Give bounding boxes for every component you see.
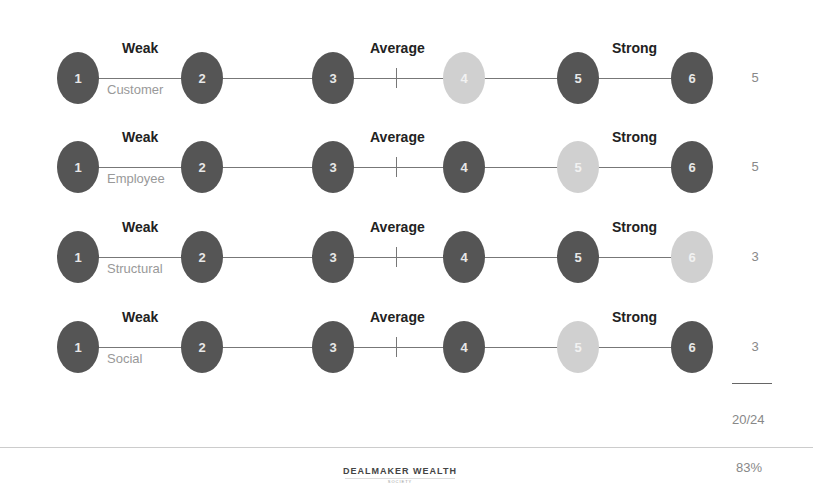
rating-circle-4[interactable]: 4	[443, 231, 485, 283]
rating-circle-2[interactable]: 2	[181, 141, 223, 193]
rating-circle-5[interactable]: 5	[557, 231, 599, 283]
band-label-weak: Weak	[122, 129, 158, 145]
rating-circle-2[interactable]: 2	[181, 52, 223, 104]
rating-circle-5[interactable]: 5	[557, 52, 599, 104]
scale-line	[78, 167, 692, 168]
row-score: 5	[745, 159, 765, 174]
rating-circle-1[interactable]: 1	[57, 321, 99, 373]
total-score: 20/24	[732, 412, 765, 427]
category-label: Employee	[107, 171, 165, 186]
band-label-average: Average	[370, 219, 425, 235]
band-label-strong: Strong	[612, 219, 657, 235]
row-score: 5	[745, 70, 765, 85]
scale-line	[78, 347, 692, 348]
rating-circle-4[interactable]: 4	[443, 141, 485, 193]
band-label-average: Average	[370, 40, 425, 56]
rating-circle-6[interactable]: 6	[671, 52, 713, 104]
row-score: 3	[745, 339, 765, 354]
rating-circle-4[interactable]: 4	[443, 321, 485, 373]
footer-divider	[0, 447, 813, 448]
average-tick	[396, 157, 397, 177]
average-tick	[396, 337, 397, 357]
rating-circle-6[interactable]: 6	[671, 231, 713, 283]
rating-circle-1[interactable]: 1	[57, 52, 99, 104]
row-score: 3	[745, 249, 765, 264]
rating-circle-3[interactable]: 3	[312, 141, 354, 193]
rating-circle-3[interactable]: 3	[312, 52, 354, 104]
rating-circle-1[interactable]: 1	[57, 141, 99, 193]
brand-logo: DEALMAKER WEALTH SOCIETY	[325, 466, 475, 484]
rating-row-employee: WeakAverageStrongEmployee1234565	[0, 127, 813, 207]
rating-row-structural: WeakAverageStrongStructural1234563	[0, 217, 813, 297]
band-label-weak: Weak	[122, 309, 158, 325]
rating-row-social: WeakAverageStrongSocial1234563	[0, 307, 813, 387]
brand-name: DEALMAKER WEALTH	[325, 466, 475, 476]
rating-row-customer: WeakAverageStrongCustomer1234565	[0, 38, 813, 118]
scale-line	[78, 257, 692, 258]
band-label-strong: Strong	[612, 309, 657, 325]
rating-circle-3[interactable]: 3	[312, 231, 354, 283]
band-label-average: Average	[370, 309, 425, 325]
brand-subtitle: SOCIETY	[345, 478, 455, 484]
band-label-strong: Strong	[612, 129, 657, 145]
percent-score: 83%	[736, 460, 762, 475]
band-label-strong: Strong	[612, 40, 657, 56]
band-label-weak: Weak	[122, 219, 158, 235]
rating-circle-5[interactable]: 5	[557, 141, 599, 193]
average-tick	[396, 68, 397, 88]
scale-line	[78, 78, 692, 79]
category-label: Customer	[107, 82, 163, 97]
band-label-weak: Weak	[122, 40, 158, 56]
rating-circle-3[interactable]: 3	[312, 321, 354, 373]
average-tick	[396, 247, 397, 267]
category-label: Structural	[107, 261, 163, 276]
rating-circle-6[interactable]: 6	[671, 321, 713, 373]
rating-circle-2[interactable]: 2	[181, 231, 223, 283]
sum-divider	[732, 383, 772, 384]
rating-circle-5[interactable]: 5	[557, 321, 599, 373]
rating-circle-4[interactable]: 4	[443, 52, 485, 104]
rating-circle-6[interactable]: 6	[671, 141, 713, 193]
rating-circle-1[interactable]: 1	[57, 231, 99, 283]
band-label-average: Average	[370, 129, 425, 145]
rating-circle-2[interactable]: 2	[181, 321, 223, 373]
category-label: Social	[107, 351, 142, 366]
